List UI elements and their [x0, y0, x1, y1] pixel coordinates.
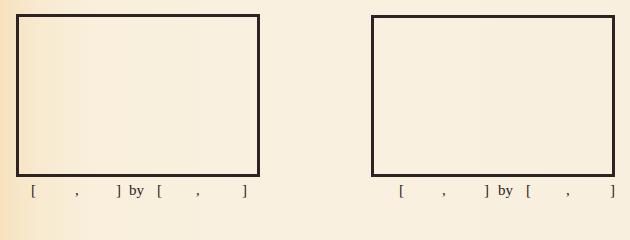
x-range-open-bracket: [ — [31, 179, 36, 201]
y-range-open-bracket: [ — [526, 179, 531, 201]
window-range-label-right: [ , ] by [ , ] — [315, 179, 630, 201]
x-range-separator: , — [442, 179, 446, 201]
y-range-close-bracket: ] — [242, 179, 247, 201]
x-range-close-bracket: ] — [116, 179, 121, 201]
viewing-window-box-right — [371, 15, 615, 177]
y-range-separator: , — [196, 179, 200, 201]
y-range-close-bracket: ] — [610, 179, 615, 201]
y-range-open-bracket: [ — [157, 179, 162, 201]
x-range-close-bracket: ] — [484, 179, 489, 201]
x-range-open-bracket: [ — [399, 179, 404, 201]
x-range-separator: , — [75, 179, 79, 201]
by-connector: by — [129, 179, 144, 201]
viewing-window-box-left — [16, 14, 260, 177]
window-range-label-left: [ , ] by [ , ] — [0, 179, 315, 201]
by-connector: by — [498, 179, 513, 201]
y-range-separator: , — [566, 179, 570, 201]
